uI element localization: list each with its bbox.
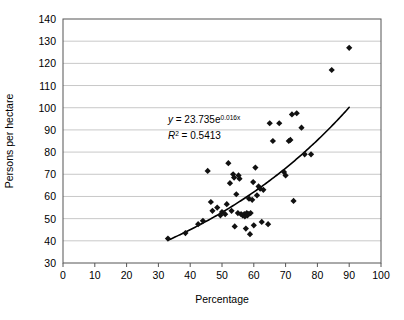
y-tick-label: 40: [44, 235, 56, 247]
chart-canvas: 0102030405060708090100 30405060708090100…: [0, 0, 404, 320]
x-tick-label: 10: [89, 269, 101, 281]
scatter-chart: 0102030405060708090100 30405060708090100…: [0, 0, 404, 320]
x-axis-title: Percentage: [195, 293, 249, 305]
x-tick-label: 60: [248, 269, 260, 281]
y-tick-label: 80: [44, 146, 56, 158]
x-tick-label: 40: [184, 269, 196, 281]
x-tick-label: 50: [216, 269, 228, 281]
y-tick-label: 140: [38, 13, 56, 25]
y-tick-label: 90: [44, 124, 56, 136]
y-tick-label: 130: [38, 35, 56, 47]
y-axis-title: Persons per hectare: [3, 94, 15, 189]
y-tick-label: 30: [44, 257, 56, 269]
x-tick-label: 100: [372, 269, 390, 281]
y-tick-label: 60: [44, 190, 56, 202]
x-tick-label: 30: [153, 269, 165, 281]
y-tick-label: 100: [38, 102, 56, 114]
y-tick-label: 110: [39, 80, 56, 92]
x-tick-label: 20: [121, 269, 133, 281]
y-tick-label: 50: [44, 213, 56, 225]
x-tick-label: 80: [312, 269, 324, 281]
y-tick-label: 120: [38, 57, 56, 69]
x-tick-label: 70: [280, 269, 292, 281]
x-tick-label: 0: [60, 269, 66, 281]
x-tick-label: 90: [343, 269, 355, 281]
y-tick-label: 70: [44, 168, 56, 180]
